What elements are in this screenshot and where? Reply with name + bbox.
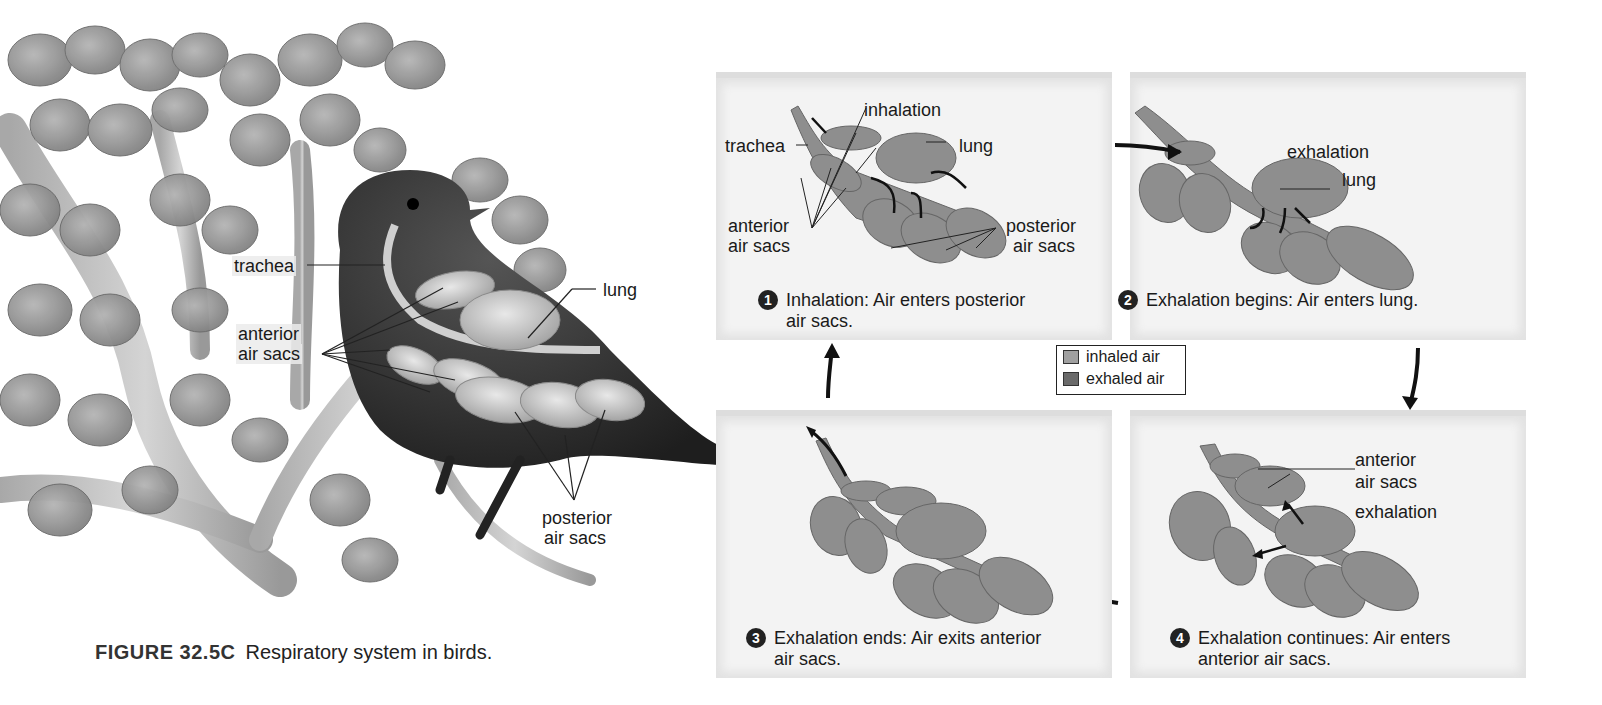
panel-step-4-exhalation-continues: anterior air sacs exhalation 4Exhalation… [1130,410,1526,678]
label-inhalation: inhalation [864,100,941,121]
step-caption: 1Inhalation: Air enters posterior air sa… [758,290,1025,332]
panel-step-2-exhalation-begins: exhalation lung 2Exhalation begins: Air … [1130,72,1526,340]
label-anterior-line1: anterior [236,324,301,344]
label-posterior-line1: posterior [542,508,612,528]
bird-in-tree-illustration: trachea anterior air sacs lung posterior… [0,20,720,600]
label-posterior-line1: posterior [1006,216,1076,237]
label-lung: lung [1342,170,1376,191]
swatch-exhaled-air [1063,372,1079,386]
caption-line2: air sacs. [746,649,841,669]
label-exhalation: exhalation [1355,502,1437,523]
legend: inhaled air exhaled air [1056,345,1186,395]
caption-line2: air sacs. [758,311,853,331]
legend-item-inhaled: inhaled air [1057,346,1185,368]
legend-label: exhaled air [1086,370,1164,388]
panel-step-1-inhalation: inhalation trachea lung anterior air sac… [716,72,1112,340]
legend-label: inhaled air [1086,348,1160,366]
label-trachea: trachea [725,136,785,157]
label-posterior-line2: air sacs [1013,236,1075,257]
swatch-inhaled-air [1063,350,1079,364]
caption-line1: Exhalation ends: Air exits anterior [774,628,1041,648]
figure-title: Respiratory system in birds. [245,641,492,663]
legend-item-exhaled: exhaled air [1057,368,1185,390]
figure-number: FIGURE 32.5C [95,641,235,663]
caption-line2: anterior air sacs. [1170,649,1331,669]
figure-caption: FIGURE 32.5CRespiratory system in birds. [95,641,492,664]
bird-eye [407,198,419,210]
step-caption: 3Exhalation ends: Air exits anterior air… [746,628,1041,670]
label-lung: lung [959,136,993,157]
label-exhalation: exhalation [1287,142,1369,163]
arrow-2-to-4 [1410,348,1418,405]
label-anterior-line2: air sacs [1355,472,1417,493]
step-number-badge: 3 [746,628,766,648]
label-anterior-line2: air sacs [728,236,790,257]
step-number-badge: 4 [1170,628,1190,648]
step-caption: 4Exhalation continues: Air enters anteri… [1170,628,1450,670]
caption-line1: Exhalation continues: Air enters [1198,628,1450,648]
label-posterior-line2: air sacs [544,528,606,548]
arrow-3-to-1 [828,348,832,398]
step-number-badge: 2 [1118,290,1138,310]
caption-line1: Inhalation: Air enters posterior [786,290,1025,310]
step-number-badge: 1 [758,290,778,310]
label-anterior-line2: air sacs [236,344,302,364]
caption-line1: Exhalation begins: Air enters lung. [1146,290,1418,310]
label-anterior-line1: anterior [728,216,789,237]
panel-step-3-exhalation-ends: 3Exhalation ends: Air exits anterior air… [716,410,1112,678]
label-lung: lung [603,280,637,300]
label-trachea: trachea [232,256,296,276]
label-anterior-line1: anterior [1355,450,1416,471]
step-caption-visible: 2Exhalation begins: Air enters lung. [1118,290,1418,311]
